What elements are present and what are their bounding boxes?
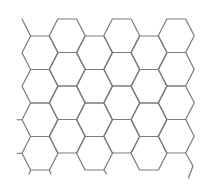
hexagon-cell-c5-r0 xyxy=(158,19,194,53)
bottom-stub-col2-right xyxy=(104,170,107,174)
hexagon-grid-diagram xyxy=(0,0,210,187)
bottom-stub-col0-right xyxy=(49,170,51,174)
hexagon-cell-c5-r2 xyxy=(158,86,194,120)
top-left-stub xyxy=(22,19,31,36)
bottom-stub-col0-left xyxy=(29,170,31,174)
hexagon-cell-c5-r3 xyxy=(158,120,194,154)
hexagon-cell-c5-r1 xyxy=(158,53,194,87)
bottom-right-fragment xyxy=(186,153,193,178)
hexagon-cells xyxy=(22,19,194,170)
